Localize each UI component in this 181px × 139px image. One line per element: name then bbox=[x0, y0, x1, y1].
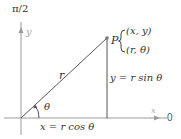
polar-coords-label: (r, θ) bbox=[126, 45, 150, 55]
x-axis-label: x bbox=[151, 107, 156, 115]
y-equation-label: y = r sin θ bbox=[110, 73, 162, 83]
zero-label: 0 bbox=[167, 113, 173, 123]
polar-diagram-canvas bbox=[0, 0, 181, 139]
y-axis-arrow-icon bbox=[19, 27, 24, 33]
pi-over-2-label: π/2 bbox=[12, 4, 28, 14]
radius-label: r bbox=[59, 70, 64, 81]
x-equation-label: x = r cos θ bbox=[40, 122, 94, 132]
point-p bbox=[105, 36, 109, 40]
point-p-label: P bbox=[111, 35, 118, 46]
y-axis-label: y bbox=[26, 27, 32, 37]
x-axis-arrow-icon bbox=[154, 116, 160, 121]
rect-coords-label: (x, y) bbox=[126, 26, 151, 36]
brace bbox=[119, 30, 126, 52]
angle-label: θ bbox=[44, 102, 50, 112]
